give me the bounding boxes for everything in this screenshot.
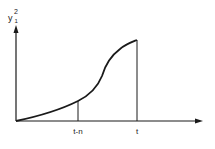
y-axis-label-subscript: 1 (15, 18, 19, 24)
tick-label-t-n: t-n (73, 127, 82, 136)
y-axis-arrow-icon (14, 25, 19, 33)
curve (16, 40, 137, 121)
y-axis-label-base: y (8, 13, 13, 23)
y-axis-label-superscript: 2 (14, 8, 18, 15)
y-axis-label: y (8, 13, 13, 23)
diagram-canvas: t-n t y 2 1 (0, 0, 215, 149)
tick-label-t: t (136, 127, 139, 136)
x-axis-arrow-icon (195, 119, 203, 124)
